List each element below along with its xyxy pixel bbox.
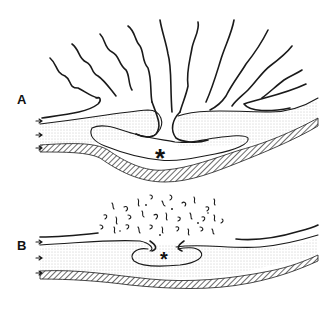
panel-b: B bbox=[0, 185, 336, 311]
panel-a-asterisk-marker: * bbox=[155, 145, 165, 171]
panel-a: A * bbox=[0, 0, 336, 190]
panel-a-drawing bbox=[0, 0, 336, 190]
panel-b-asterisk-marker: * bbox=[160, 249, 168, 269]
panel-b-drawing bbox=[0, 185, 336, 311]
